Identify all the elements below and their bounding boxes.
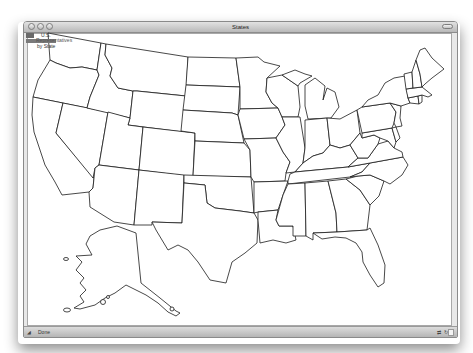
state-ri[interactable]	[418, 95, 422, 104]
alaska-island	[64, 258, 69, 261]
state-nm[interactable]	[134, 170, 184, 225]
state-pa[interactable]	[357, 103, 396, 133]
state-nd[interactable]	[186, 57, 240, 87]
alaska-island	[107, 296, 110, 299]
legend-line-3: by State	[37, 44, 55, 49]
legend-swatch	[26, 33, 34, 38]
state-ks[interactable]	[193, 141, 251, 177]
alaska-island	[170, 307, 174, 311]
state-co[interactable]	[139, 127, 195, 177]
state-fl[interactable]	[313, 228, 385, 287]
state-vt[interactable]	[404, 72, 413, 89]
us-states-map	[0, 0, 473, 353]
alaska-island	[101, 300, 106, 305]
state-ia[interactable]	[238, 108, 285, 139]
state-ny[interactable]	[362, 76, 410, 107]
state-az[interactable]	[89, 165, 139, 225]
alaska-island	[64, 308, 71, 312]
map-legend: U.S. Representatives by State	[26, 33, 70, 53]
